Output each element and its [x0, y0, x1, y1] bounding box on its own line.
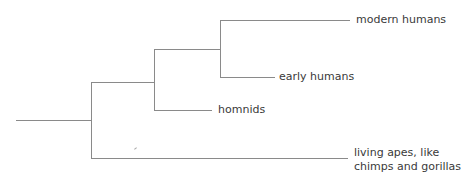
label-living-apes-line1: living apes, like	[354, 146, 461, 160]
label-living-apes: living apes, like chimps and gorillas	[354, 146, 461, 174]
label-early-humans: early humans	[279, 70, 354, 84]
label-homnids: homnids	[218, 103, 265, 117]
label-living-apes-line2: chimps and gorillas	[354, 160, 461, 174]
label-modern-humans: modern humans	[356, 13, 446, 27]
